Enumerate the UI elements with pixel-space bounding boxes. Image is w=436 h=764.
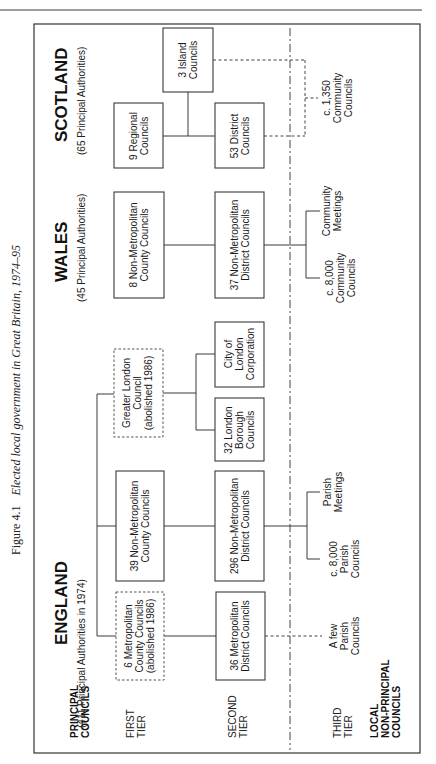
svg-text:(411 Principal Authorities in: (411 Principal Authorities in 1974) [76,579,87,728]
box-regional-councils: 9 RegionalCouncils [114,103,163,168]
svg-text:FIRSTTIER: FIRSTTIER [125,709,147,738]
label-parish-meetings: ParishMeetings [322,472,344,513]
box-metropolitan-county-councils: 6 MetropolitanCounty Councils(abolished … [116,592,164,680]
svg-text:c. 8,000ParishCouncils: c. 8,000ParishCouncils [328,540,361,578]
svg-text:ENGLAND: ENGLAND [52,561,71,645]
svg-text:6 MetropolitanCounty Councils(: 6 MetropolitanCounty Councils(abolished … [123,599,156,674]
svg-text:THIRDTIER: THIRDTIER [332,707,354,738]
svg-text:(65 Principal Authorities): (65 Principal Authorities) [76,47,87,155]
label-few-parish-councils: A fewParishCouncils [328,617,361,655]
row-label-local-non-principal: LOCALNON-PRINCIPALCOUNCILS [369,659,402,738]
subtitle-scotland: (65 Principal Authorities) [76,47,87,155]
box-non-metropolitan-county-councils-england: 39 Non-MetropolitanCounty Councils [116,471,164,581]
svg-text:32 LondonBoroughCouncils: 32 LondonBoroughCouncils [223,406,256,453]
svg-text:c. 8,000CommunityCouncils: c. 8,000CommunityCouncils [324,253,357,304]
svg-text:53 DistrictCouncils: 53 DistrictCouncils [229,114,251,159]
row-label-second-tier: SECONDTIER [227,695,249,738]
box-greater-london-council: Greater LondonCouncil(abolished 1986) [114,349,163,437]
svg-text:WALES: WALES [52,222,71,282]
local-government-diagram: Figure 4.1Elected local government in Gr… [0,0,436,764]
svg-text:SCOTLAND: SCOTLAND [52,48,71,142]
svg-text:(45 Principal Authorities): (45 Principal Authorities) [76,194,87,302]
figure-caption: Figure 4.1Elected local government in Gr… [9,245,23,555]
svg-text:CommunityMeetings: CommunityMeetings [321,186,343,237]
box-city-of-london-corporation: City ofLondonCorporation [215,322,264,387]
country-headings: ENGLAND (411 Principal Authorities in 19… [52,47,87,728]
figure-number: Figure 4.1 [9,506,23,555]
box-island-councils: 3 IslandCouncils [163,28,213,92]
row-label-third-tier: THIRDTIER [332,707,354,738]
svg-text:37 Non-MetropolitanDistrict Co: 37 Non-MetropolitanDistrict Councils [229,200,251,291]
heading-wales: WALES [52,222,71,282]
svg-text:A fewParishCouncils: A fewParishCouncils [328,617,361,655]
label-community-councils-wales: c. 8,000CommunityCouncils [324,253,357,304]
svg-text:296 Non-MetropolitanDistrict C: 296 Non-MetropolitanDistrict Councils [229,478,251,574]
svg-text:Figure 4.1Elected local govern: Figure 4.1Elected local government in Gr… [9,245,23,555]
box-scottish-district-councils: 53 DistrictCouncils [215,103,264,168]
label-community-councils-scotland: c. 1,350CommunityCouncils [321,73,354,124]
figure-title: Elected local government in Great Britai… [9,245,23,497]
box-london-borough-councils: 32 LondonBoroughCouncils [215,398,264,461]
subtitle-wales: (45 Principal Authorities) [76,194,87,302]
heading-scotland: SCOTLAND [52,48,71,142]
svg-text:3 IslandCouncils: 3 IslandCouncils [177,41,199,79]
svg-text:9 RegionalCouncils: 9 RegionalCouncils [128,112,150,160]
row-label-first-tier: FIRSTTIER [125,709,147,738]
box-metropolitan-district-councils: 36 MetropolitanDistrict Councils [216,592,265,680]
box-non-metropolitan-county-councils-wales: 8 Non-MetropolitanCounty Councils [114,192,164,298]
box-non-metropolitan-district-councils-wales: 37 Non-MetropolitanDistrict Councils [215,192,264,298]
label-community-meetings-wales: CommunityMeetings [321,186,343,237]
box-non-metropolitan-district-councils-england: 296 Non-MetropolitanDistrict Councils [215,471,264,581]
label-parish-councils-8000: c. 8,000ParishCouncils [328,540,361,578]
svg-text:36 MetropolitanDistrict Counci: 36 MetropolitanDistrict Councils [229,600,251,672]
svg-text:c. 1,350CommunityCouncils: c. 1,350CommunityCouncils [321,73,354,124]
svg-text:ParishMeetings: ParishMeetings [322,472,344,513]
svg-text:8 Non-MetropolitanCounty Counc: 8 Non-MetropolitanCounty Councils [128,202,150,287]
subtitle-england: (411 Principal Authorities in 1974) [76,579,87,728]
heading-england: ENGLAND [52,561,71,645]
svg-text:LOCALNON-PRINCIPALCOUNCILS: LOCALNON-PRINCIPALCOUNCILS [369,659,402,738]
svg-text:39 Non-MetropolitanCounty Coun: 39 Non-MetropolitanCounty Councils [129,481,151,572]
svg-text:SECONDTIER: SECONDTIER [227,695,249,738]
